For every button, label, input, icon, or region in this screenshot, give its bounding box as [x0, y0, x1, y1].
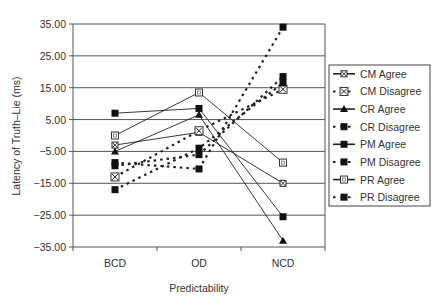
data-point [341, 71, 347, 77]
legend-label: PM Agree [360, 138, 406, 150]
y-axis-title: Latency of Truth–Lie (ms) [10, 76, 22, 195]
data-point [196, 145, 203, 152]
legend-label: PR Disagree [360, 191, 420, 203]
data-point [341, 176, 348, 183]
data-point [341, 158, 348, 165]
data-point [341, 194, 348, 201]
data-point [196, 151, 203, 158]
y-tick-label: −35.00 [34, 241, 67, 253]
x-axis-title: Predictability [169, 282, 229, 294]
data-point [196, 165, 203, 172]
data-point [280, 24, 287, 31]
y-tick-label: −25.00 [34, 209, 67, 221]
data-point [112, 132, 119, 139]
legend-item: CM Disagree [333, 85, 421, 97]
x-axis-categories: BCDODNCD [104, 257, 295, 269]
x-category-label: OD [191, 257, 207, 269]
legend-label: CR Disagree [360, 121, 420, 133]
legend-label: CM Disagree [360, 85, 421, 97]
data-point [280, 79, 287, 86]
data-point [196, 89, 203, 96]
series-group [111, 24, 287, 244]
data-point [279, 85, 287, 93]
x-category-label: BCD [104, 257, 127, 269]
data-point [280, 180, 286, 186]
data-point [196, 105, 203, 112]
y-tick-label: 25.00 [40, 50, 66, 62]
legend-label: CR Agree [360, 103, 406, 115]
data-point [280, 213, 287, 220]
legend-label: CM Agree [360, 68, 407, 80]
data-point [280, 159, 287, 166]
y-tick-label: −15.00 [34, 177, 67, 189]
data-point [112, 186, 119, 193]
data-point [112, 142, 118, 148]
x-category-label: NCD [272, 257, 295, 269]
legend: CM AgreeCM DisagreeCR AgreeCR DisagreePM… [329, 65, 430, 206]
line-chart: 35.0025.0015.005.00−5.00−15.00−25.00−35.… [0, 0, 442, 306]
y-tick-label: 35.00 [40, 18, 66, 30]
legend-label: PM Disagree [360, 156, 421, 168]
data-point [195, 127, 203, 135]
y-tick-label: 5.00 [46, 114, 67, 126]
legend-label: PR Agree [360, 174, 405, 186]
data-point [112, 110, 119, 117]
data-point [340, 87, 348, 95]
data-point [279, 237, 287, 244]
y-tick-label: −5.00 [39, 145, 66, 157]
series-line [115, 83, 283, 190]
series-line [115, 108, 283, 216]
y-tick-label: 15.00 [40, 82, 66, 94]
data-point [280, 73, 287, 80]
axes [73, 24, 325, 251]
data-point [112, 159, 119, 166]
data-point [111, 173, 119, 181]
series-pm-agree [112, 105, 287, 220]
y-axis-ticks: 35.0025.0015.005.00−5.00−15.00−25.00−35.… [34, 18, 73, 253]
data-point [341, 123, 348, 130]
data-point [341, 141, 348, 148]
